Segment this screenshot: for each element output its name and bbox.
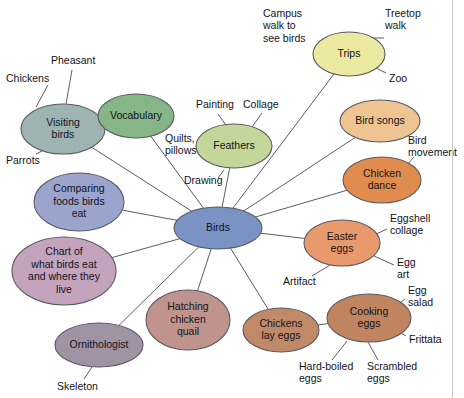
node-vocabulary[interactable]: Vocabulary — [98, 94, 174, 138]
leaf-label-parrots: Parrots — [6, 154, 40, 166]
node-label-hatching-chicken-quail: quail — [177, 325, 199, 337]
leaf-label-skeleton: Skeleton — [57, 380, 98, 392]
node-label-chart-of-what-birds-eat: and where they — [28, 270, 101, 282]
mind-map-svg: VisitingbirdsVocabularyFeathersTripsBird… — [0, 0, 464, 398]
leaf-label-treetop-walk: Treetop — [385, 7, 421, 19]
leaf-label-egg-art: Egg — [397, 256, 416, 268]
node-label-visiting-birds: birds — [52, 128, 75, 140]
node-feathers[interactable]: Feathers — [196, 124, 272, 168]
leaf-label-eggshell-collage: Eggshell — [390, 212, 430, 224]
node-label-chicken-dance: Chicken — [363, 167, 401, 179]
edge-birds-to-feathers — [222, 168, 230, 207]
node-label-easter-eggs: eggs — [331, 242, 354, 254]
node-hatching-chicken-quail[interactable]: Hatchingchickenquail — [146, 290, 230, 350]
leaf-label-eggshell-collage: collage — [390, 224, 423, 236]
node-label-visiting-birds: Visiting — [46, 116, 80, 128]
node-label-comparing-foods-birds-eat: foods birds — [53, 195, 104, 207]
leader-line-pheasant — [66, 70, 72, 104]
node-cooking-eggs[interactable]: Cookingeggs — [327, 294, 411, 342]
node-comparing-foods-birds-eat[interactable]: Comparingfoods birdseat — [34, 173, 124, 231]
node-label-chart-of-what-birds-eat: what birds eat — [30, 258, 96, 270]
leader-line-egg-art — [374, 256, 394, 265]
leaf-label-collage: Collage — [243, 98, 279, 110]
leader-line-hard-boiled-eggs — [332, 341, 347, 360]
leaf-label-bird-movement: Bird — [408, 134, 427, 146]
leaf-label-campus-walk: see birds — [263, 32, 306, 44]
node-label-comparing-foods-birds-eat: eat — [72, 207, 87, 219]
leaf-label-pheasant: Pheasant — [51, 54, 95, 66]
leaf-label-campus-walk: walk to — [262, 19, 296, 31]
node-easter-eggs[interactable]: Eastereggs — [304, 220, 380, 266]
edge-birds-to-chickens-lay-eggs — [230, 248, 268, 309]
leaf-label-egg-salad: salad — [408, 296, 433, 308]
node-label-chickens-lay-eggs: Chickens — [259, 317, 302, 329]
node-label-chickens-lay-eggs: lay eggs — [261, 329, 300, 341]
leaf-label-treetop-walk: walk — [384, 19, 407, 31]
node-label-bird-songs: Bird songs — [355, 114, 405, 126]
node-label-comparing-foods-birds-eat: Comparing — [53, 182, 105, 194]
edge-birds-to-hatching-chicken-quail — [198, 249, 212, 291]
node-label-easter-eggs: Easter — [327, 230, 358, 242]
edge-chickens-lay-eggs-to-cooking-eggs — [318, 324, 328, 325]
mind-map-canvas: VisitingbirdsVocabularyFeathersTripsBird… — [0, 0, 464, 398]
leaf-label-scrambled-eggs: Scrambled — [367, 360, 417, 372]
edge-birds-to-easter-eggs — [261, 233, 305, 238]
node-label-feathers: Feathers — [213, 139, 254, 151]
leaf-label-campus-walk: Campus — [263, 7, 302, 19]
leaf-label-hard-boiled-eggs: Hard-boiled — [299, 360, 353, 372]
edge-birds-to-comparing-foods-birds-eat — [122, 210, 177, 220]
leader-line-collage — [252, 113, 262, 127]
node-chickens-lay-eggs[interactable]: Chickenslay eggs — [243, 308, 319, 352]
node-label-hatching-chicken-quail: chicken — [170, 313, 206, 325]
node-label-chart-of-what-birds-eat: live — [56, 283, 72, 295]
node-label-cooking-eggs: Cooking — [350, 305, 389, 317]
node-label-birds: Birds — [206, 221, 230, 233]
node-label-chicken-dance: dance — [368, 179, 397, 191]
node-label-trips: Trips — [338, 47, 361, 59]
leaf-label-hard-boiled-eggs: eggs — [299, 372, 322, 384]
leaf-label-frittata: Frittata — [409, 333, 442, 345]
node-visiting-birds[interactable]: Visitingbirds — [21, 104, 105, 154]
leaf-label-chickens: Chickens — [6, 72, 49, 84]
leaf-label-scrambled-eggs: eggs — [367, 372, 390, 384]
leaf-label-zoo: Zoo — [389, 72, 407, 84]
node-ornithologist[interactable]: Ornithologist — [55, 323, 143, 367]
node-label-hatching-chicken-quail: Hatching — [167, 300, 209, 312]
edge-birds-to-chart-of-what-birds-eat — [112, 239, 180, 258]
node-birds[interactable]: Birds — [174, 207, 262, 249]
node-label-vocabulary: Vocabulary — [110, 109, 163, 121]
node-chart-of-what-birds-eat[interactable]: Chart ofwhat birds eatand where theylive — [12, 237, 116, 305]
node-label-chart-of-what-birds-eat: Chart of — [45, 245, 82, 257]
leaf-label-egg-art: art — [397, 268, 409, 280]
node-label-ornithologist: Ornithologist — [70, 338, 129, 350]
node-layer: VisitingbirdsVocabularyFeathersTripsBird… — [12, 32, 421, 367]
leader-line-skeleton — [84, 367, 92, 379]
leaf-label-quilts-pillows: pillows — [165, 144, 197, 156]
leader-line-painting — [218, 114, 226, 125]
leader-line-scrambled-eggs — [368, 342, 378, 360]
leaf-label-quilts-pillows: Quilts, — [165, 132, 195, 144]
leader-line-chickens — [36, 85, 48, 107]
leaf-label-drawing: Drawing — [184, 174, 223, 186]
leaf-label-egg-salad: Egg — [408, 284, 427, 296]
leaf-label-artifact: Artifact — [283, 275, 316, 287]
node-trips[interactable]: Trips — [313, 32, 385, 76]
leaf-label-bird-movement: movement — [408, 146, 457, 158]
leaf-label-painting: Painting — [196, 98, 234, 110]
node-chicken-dance[interactable]: Chickendance — [343, 157, 421, 203]
node-label-cooking-eggs: eggs — [358, 317, 381, 329]
